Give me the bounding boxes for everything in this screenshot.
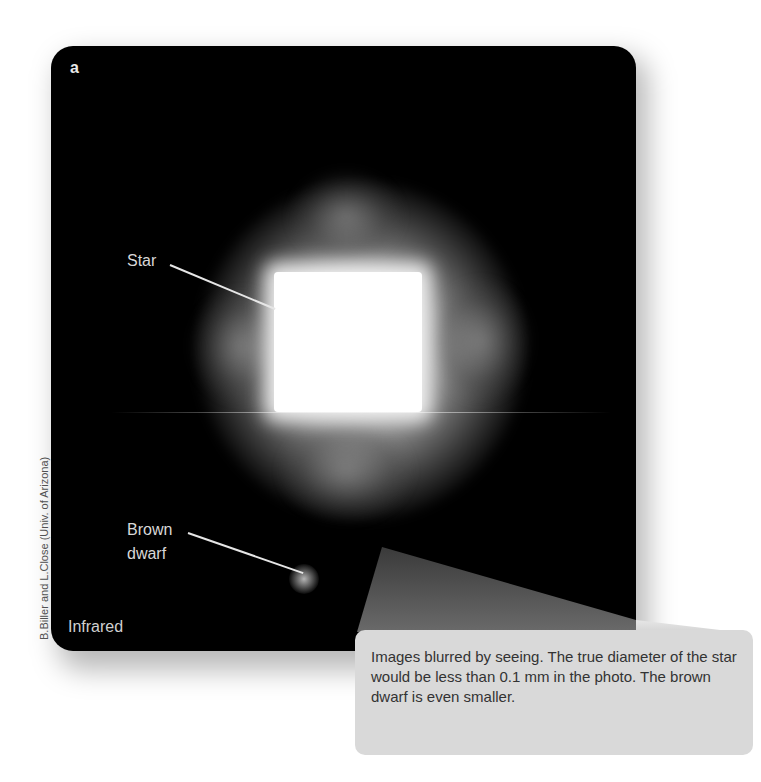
- star-core: [274, 272, 422, 412]
- figure: B.Biller and L.Close (Univ. of Arizona) …: [0, 0, 761, 782]
- brown-dwarf-label: Brown dwarf: [127, 518, 197, 566]
- panel-letter: a: [70, 59, 79, 77]
- image-credit: B.Biller and L.Close (Univ. of Arizona): [38, 457, 50, 640]
- infrared-image-panel: a Star Brown dwarf Infrared: [51, 46, 636, 651]
- star-halo-lobe-right: [431, 281, 531, 401]
- star-halo-lobe-top: [291, 171, 401, 261]
- callout-box: Images blurred by seeing. The true diame…: [355, 630, 753, 755]
- brown-dwarf-leader-line: [188, 532, 304, 574]
- star-halo-lobe-bottom: [281, 421, 411, 521]
- star-label: Star: [127, 249, 156, 273]
- callout-text: Images blurred by seeing. The true diame…: [371, 648, 737, 705]
- infrared-label: Infrared: [68, 618, 123, 636]
- scan-artifact: [111, 412, 611, 413]
